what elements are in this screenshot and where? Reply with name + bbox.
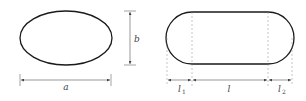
diagram-canvas: b a l 1 l l 2 [0,0,306,101]
label-l1: l [178,84,181,94]
label-a: a [63,82,68,92]
length-dimensions: l 1 l l 2 [168,80,291,95]
label-l: l [228,84,231,94]
height-dimension: b [124,11,140,65]
width-dimension: a [20,74,111,92]
label-l2-sub: 2 [282,88,286,95]
stadium-shape [166,12,294,64]
label-l1-sub: 1 [182,88,186,95]
ellipse-figure [20,11,112,65]
ellipse-shape [20,11,112,65]
label-l2: l [278,84,281,94]
stadium-figure [166,12,294,86]
label-b: b [134,34,140,44]
